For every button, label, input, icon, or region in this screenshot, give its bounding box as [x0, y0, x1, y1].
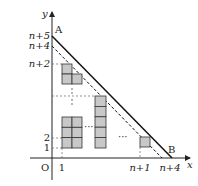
x-axis-label: x: [187, 159, 193, 170]
y-tick-1: 1: [44, 142, 50, 153]
point-B-label: B: [168, 144, 175, 155]
y-tick-n2: n+2: [29, 58, 50, 69]
x-tick-n4: n+4: [159, 162, 180, 173]
x-tick-n1: n+1: [129, 162, 150, 173]
y-tick-n4: n+4: [29, 40, 50, 51]
origin-label: O: [41, 162, 49, 173]
horizontal-ellipsis-2: ···: [118, 131, 128, 142]
lattice-diagram: ··· ··· A B y x O n+5 n+4 n+2 2 1 1 n+1 …: [0, 0, 198, 186]
y-axis-label: y: [41, 8, 48, 19]
cell-group-bottom-left: [62, 117, 82, 148]
cell-group-top: [62, 64, 82, 84]
x-tick-1: 1: [59, 162, 65, 173]
vertical-ellipsis: [71, 88, 72, 104]
cell-column-middle: [95, 96, 106, 148]
horizontal-ellipsis-1: ···: [84, 121, 94, 132]
point-A-label: A: [54, 24, 63, 35]
cell-single-right: [140, 137, 150, 147]
